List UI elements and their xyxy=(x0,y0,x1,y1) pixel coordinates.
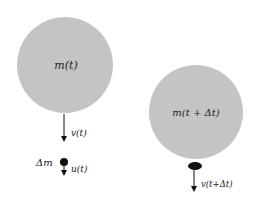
velocity-label-t: v(t) xyxy=(71,128,87,138)
ejected-mass-dot xyxy=(60,158,68,166)
ejected-mass-label: Δm xyxy=(35,157,53,168)
velocity-label-t-plus-dt: v(t+Δt) xyxy=(201,179,233,189)
mass-label-t-plus-dt: m(t + Δt) xyxy=(172,107,219,118)
diagram-canvas: m(t) v(t) Δm u(t) m(t + Δt) v(t+Δt) xyxy=(0,0,256,204)
mass-label-t: m(t) xyxy=(54,59,77,72)
ejected-velocity-label: u(t) xyxy=(71,164,88,174)
attached-mass-blob xyxy=(188,162,202,170)
rocket-mass-diagram: m(t) v(t) Δm u(t) m(t + Δt) v(t+Δt) xyxy=(0,0,256,204)
